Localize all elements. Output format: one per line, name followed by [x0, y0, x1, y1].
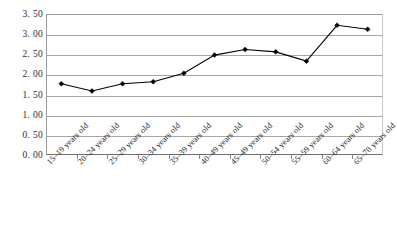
gridline	[47, 55, 382, 56]
gridline	[47, 116, 382, 117]
y-axis-tick-label: 2. 00	[0, 69, 43, 79]
y-axis-tick-label: 2. 50	[0, 49, 43, 59]
plot-area	[46, 14, 383, 155]
y-axis-tick-label: 0. 50	[0, 130, 43, 140]
gridline	[47, 136, 382, 137]
gridline	[47, 35, 382, 36]
y-axis-tick-label: 1. 50	[0, 90, 43, 100]
gridline	[47, 75, 382, 76]
y-axis-tick-label: 3. 00	[0, 29, 43, 39]
y-axis-tick-label: 0. 00	[0, 150, 43, 160]
y-axis-tick-label: 3. 50	[0, 9, 43, 19]
gridline	[47, 96, 382, 97]
y-axis-tick-label: 1. 00	[0, 110, 43, 120]
